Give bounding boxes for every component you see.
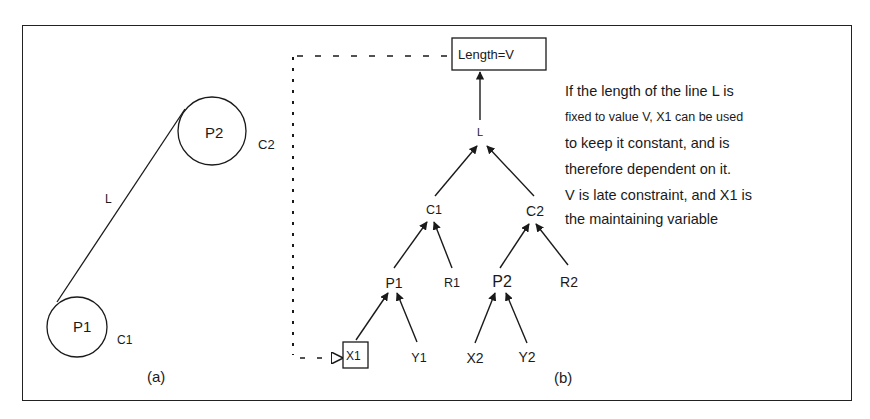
description-line: fixed to value V, X1 can be used [565, 104, 835, 130]
description-text: If the length of the line L is fixed to … [565, 78, 835, 232]
node-r2: R2 [560, 274, 578, 290]
description-line: V is late constraint, and X1 is [565, 182, 835, 208]
node-r1: R1 [444, 276, 460, 290]
c2-label: C2 [258, 137, 275, 152]
description-line: If the length of the line L is [565, 78, 835, 104]
description-line: the maintaining variable [565, 206, 835, 232]
line-l [57, 109, 185, 302]
c1-label: C1 [117, 333, 132, 347]
node-y2: Y2 [518, 349, 535, 365]
caption-b: (b) [554, 369, 572, 386]
caption-a: (a) [147, 368, 165, 385]
node-p1: P1 [385, 275, 402, 291]
p2-label: P2 [205, 124, 223, 141]
node-c1: C1 [426, 203, 442, 217]
node-x2: X2 [466, 350, 483, 366]
length-constraint-label: Length=V [458, 47, 514, 62]
node-c2: C2 [526, 203, 544, 219]
line-l-label: L [105, 192, 112, 206]
node-l: L [477, 126, 483, 138]
description-line: to keep it constant, and is [565, 130, 835, 156]
node-p2: P2 [492, 273, 512, 291]
description-line: therefore dependent on it. [565, 156, 835, 182]
node-y1: Y1 [411, 351, 426, 365]
node-x1: X1 [346, 349, 361, 363]
p1-label: P1 [73, 318, 91, 335]
